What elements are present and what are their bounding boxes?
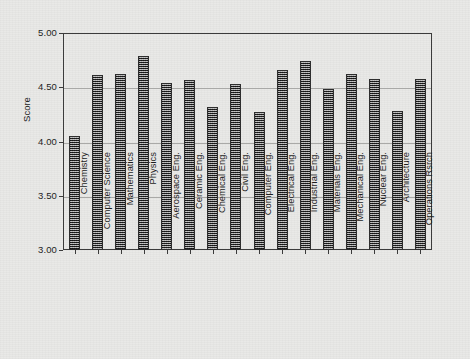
x-tick-label: Materials Eng. — [332, 152, 342, 256]
x-tick-label: Mathematics — [125, 152, 135, 256]
y-tick-label: 4.00 — [11, 136, 57, 147]
x-tick-mark — [144, 250, 145, 254]
x-tick-label: Chemical Eng. — [217, 152, 227, 256]
x-tick-label: Electrical Eng. — [286, 152, 296, 256]
x-tick-label: Aerospace Eng. — [171, 152, 181, 256]
x-tick-label: Physics — [148, 152, 158, 256]
y-tick-label: 3.50 — [11, 190, 57, 201]
x-tick-mark — [328, 250, 329, 254]
y-tick-label: 5.00 — [11, 27, 57, 38]
x-tick-mark — [351, 250, 352, 254]
x-tick-mark — [420, 250, 421, 254]
x-tick-mark — [190, 250, 191, 254]
x-tick-mark — [305, 250, 306, 254]
y-tick-mark — [59, 250, 63, 251]
x-tick-label: Civil Eng. — [240, 152, 250, 256]
x-tick-mark — [75, 250, 76, 254]
y-tick-label: 4.50 — [11, 81, 57, 92]
figure-background: Score 3.003.504.004.505.00 ChemistryComp… — [0, 0, 470, 359]
x-tick-label: Chemistry — [79, 152, 89, 256]
x-tick-mark — [121, 250, 122, 254]
x-tick-mark — [236, 250, 237, 254]
x-tick-label: Architecture — [401, 152, 411, 256]
x-tick-mark — [282, 250, 283, 254]
x-tick-label: Computer Science — [102, 152, 112, 256]
x-tick-label: Operations Rsrch — [424, 152, 434, 256]
x-tick-mark — [213, 250, 214, 254]
x-tick-mark — [167, 250, 168, 254]
x-tick-label: Mechanical Eng. — [355, 152, 365, 256]
x-tick-mark — [259, 250, 260, 254]
x-tick-label: Industrial Eng. — [309, 152, 319, 256]
y-tick-label: 3.00 — [11, 244, 57, 255]
bar-chart-figure: Score 3.003.504.004.505.00 ChemistryComp… — [0, 0, 470, 359]
x-tick-mark — [98, 250, 99, 254]
x-tick-label: Ceramic Eng. — [194, 152, 204, 256]
x-tick-label: Computer Eng. — [263, 152, 273, 256]
x-tick-mark — [397, 250, 398, 254]
x-tick-mark — [374, 250, 375, 254]
x-tick-label: Nuclear Eng. — [378, 152, 388, 256]
